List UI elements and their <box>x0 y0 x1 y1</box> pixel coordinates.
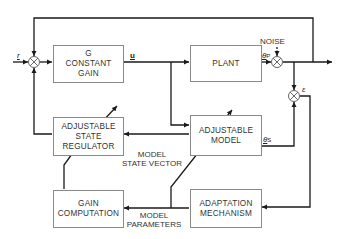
block-label-line: ADAPTATION <box>199 199 252 209</box>
constant-gain-block: G CONSTANT GAIN <box>53 45 124 83</box>
gain-computation-block: GAIN COMPUTATION <box>53 190 124 228</box>
block-label-line: PLANT <box>212 59 239 69</box>
input-sum-junction <box>29 57 40 68</box>
block-label-line: ADJUSTABLE <box>199 126 253 136</box>
model-output-label: θS <box>263 135 271 144</box>
model-parameters-label: MODEL PARAMETERS <box>126 211 182 229</box>
block-label-line: MECHANISM <box>200 209 252 219</box>
block-label-line: REGULATOR <box>63 142 115 152</box>
error-sum-junction <box>289 91 300 102</box>
noise-label: NOISE <box>260 37 285 46</box>
block-label-line: CONSTANT <box>65 59 111 69</box>
block-label-line: MODEL <box>211 136 241 146</box>
plant-output-label: θP <box>262 51 270 60</box>
block-label-line: G <box>85 49 92 59</box>
diagram-wires <box>0 0 341 239</box>
error-signal-label: ε <box>302 85 306 94</box>
model-state-vector-label: MODEL STATE VECTOR <box>122 150 182 168</box>
noise-sum-junction <box>272 57 283 68</box>
control-signal-label: u <box>130 51 135 60</box>
block-label-line: GAIN <box>78 69 99 79</box>
block-label-line: ADJUSTABLE <box>61 122 115 132</box>
adjustable-model-block: ADJUSTABLE MODEL <box>190 115 262 156</box>
regulator-feedback-line <box>34 68 52 134</box>
state-regulator-block: ADJUSTABLE STATE REGULATOR <box>53 117 124 156</box>
adaptation-mechanism-block: ADAPTATION MECHANISM <box>190 189 262 228</box>
plant-block: PLANT <box>190 45 262 82</box>
block-label-line: COMPUTATION <box>58 209 119 219</box>
reference-signal-label: r <box>17 51 20 60</box>
control-to-model-line <box>171 62 189 125</box>
error-to-adaptation-line <box>262 96 310 207</box>
block-label-line: GAIN <box>78 199 99 209</box>
gain-adjust-line <box>64 154 72 189</box>
block-label-line: STATE <box>75 132 101 142</box>
